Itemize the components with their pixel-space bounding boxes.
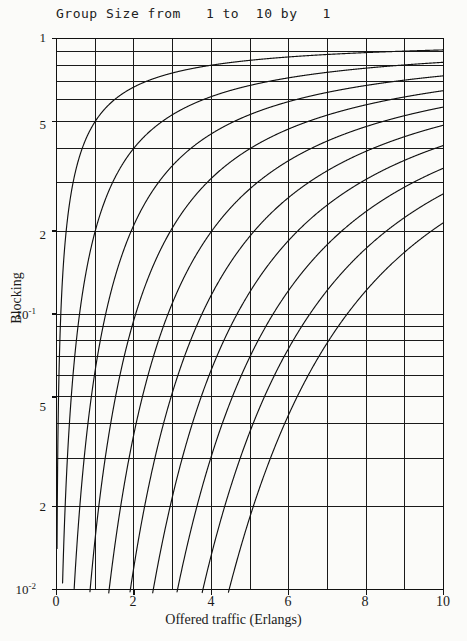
ytick-label-0-01: 10-2 [0, 581, 36, 598]
ytick-0-1-exponent: -1 [29, 306, 37, 316]
yaxis-title: Blocking [9, 253, 25, 343]
ytick-label-0-5: 5 [6, 117, 46, 133]
ytick-label-0-2: 2 [6, 227, 46, 243]
xtick-label-8: 8 [350, 594, 380, 610]
ytick-label-0-05: 5 [6, 399, 46, 415]
xtick-label-4: 4 [196, 594, 226, 610]
xtick-label-6: 6 [273, 594, 303, 610]
ytick-label-1: 1 [6, 30, 46, 46]
xaxis-title: Offered traffic (Erlangs) [0, 612, 467, 628]
plot-area [0, 0, 467, 641]
xtick-label-2: 2 [118, 594, 148, 610]
xtick-label-10: 10 [428, 594, 458, 610]
xtick-label-0: 0 [41, 594, 71, 610]
ytick-0-01-exponent: -2 [29, 581, 37, 591]
ytick-0-01-base: 10 [16, 582, 29, 597]
erlang-b-chart-figure: Group Size from 1 to 10 by 1 1 5 2 10-1 … [0, 0, 467, 641]
ytick-label-0-02: 2 [6, 499, 46, 515]
